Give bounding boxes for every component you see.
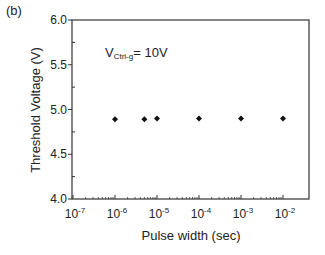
data-point-diamond bbox=[238, 115, 244, 121]
annotation-v: V bbox=[105, 45, 114, 60]
data-point-diamond bbox=[112, 116, 118, 122]
y-tick-label: 5.0 bbox=[50, 103, 67, 117]
y-tick-label: 5.5 bbox=[50, 58, 67, 72]
x-tick-label: 10-5 bbox=[149, 206, 169, 221]
x-tick-label: 10-2 bbox=[275, 206, 295, 221]
chart-container: (b) Threshold Voltage (V) Pulse width (s… bbox=[0, 0, 325, 255]
panel-label: (b) bbox=[6, 3, 22, 18]
annotation-subscript: Ctrl-g bbox=[114, 52, 134, 61]
x-tick-label: 10-7 bbox=[65, 206, 85, 221]
x-tick-label: 10-4 bbox=[191, 206, 211, 221]
data-point-diamond bbox=[196, 115, 202, 121]
y-axis-label: Threshold Voltage (V) bbox=[28, 47, 43, 173]
data-point-diamond bbox=[154, 115, 160, 121]
x-tick-label: 10-3 bbox=[233, 206, 253, 221]
x-axis-label: Pulse width (sec) bbox=[142, 228, 241, 243]
annotation-vctrl: VCtrl-g= 10V bbox=[105, 45, 168, 61]
data-point-diamond bbox=[280, 115, 286, 121]
x-tick-label: 10-6 bbox=[107, 206, 127, 221]
y-tick-label: 4.5 bbox=[50, 147, 67, 161]
y-tick-label: 6.0 bbox=[50, 13, 67, 27]
annotation-value: = 10V bbox=[133, 45, 167, 60]
y-tick-label: 4.0 bbox=[50, 192, 67, 206]
data-point-diamond bbox=[141, 116, 147, 122]
